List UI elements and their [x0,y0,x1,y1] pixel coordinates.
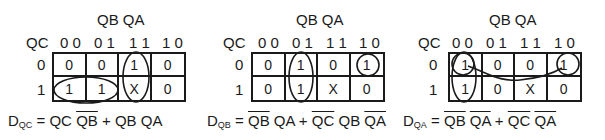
cell: 0 [483,54,516,77]
col-header-11: 1 1 [129,34,150,51]
row-variable-label: QC [223,34,246,51]
cell: 0 [152,77,185,100]
col-header-00: 0 0 [452,34,473,51]
col-header-10: 1 0 [162,34,183,51]
cell: 0 [548,77,581,100]
col-header-00: 0 0 [258,34,279,51]
col-header-11: 1 1 [520,34,541,51]
kmap-grid: 0 1 0 1 0 1 X 0 [251,52,385,102]
cell: 1 [351,54,384,77]
cell: X [515,77,548,100]
equation-dqa: DQA = QB QA + QC QA [403,112,556,130]
equation-dqb: DQB = QB QA + QC QB QA [207,112,386,130]
cell: 0 [515,54,548,77]
row-variable-label: QC [26,34,49,51]
cell: 0 [318,54,351,77]
cell: 1 [54,77,87,100]
kmap-grid: 1 0 0 1 1 0 X 0 [448,52,582,102]
kmap-dqc: QB QA QC 0 0 0 1 1 1 1 0 0 1 0 0 1 0 1 1… [0,0,200,140]
cell: X [318,77,351,100]
kmap-dqb: QB QA QC 0 0 0 1 1 1 1 0 0 1 0 1 0 1 0 1… [199,0,399,140]
cell: 1 [87,77,120,100]
kmap-grid: 0 0 1 0 1 1 X 0 [52,52,186,102]
row-header-1: 1 [37,81,45,98]
row-header-0: 0 [235,56,243,73]
cell: 0 [253,54,286,77]
cell: 0 [152,54,185,77]
cell: 1 [286,77,319,100]
cell: 0 [253,77,286,100]
row-header-1: 1 [235,81,243,98]
row-header-0: 0 [429,56,437,73]
row-header-1: 1 [429,81,437,98]
col-variable-label: QB QA [296,11,344,28]
cell: 0 [351,77,384,100]
kmap-dqa: QB QA QC 0 0 0 1 1 1 1 0 0 1 1 0 0 1 1 0… [396,0,596,140]
col-header-01: 0 1 [94,34,115,51]
cell: 1 [286,54,319,77]
cell: 1 [548,54,581,77]
col-header-11: 1 1 [326,34,347,51]
col-variable-label: QB QA [97,11,145,28]
cell: X [119,77,152,100]
cell: 1 [119,54,152,77]
row-header-0: 0 [37,56,45,73]
cell: 0 [54,54,87,77]
cell: 1 [450,54,483,77]
row-variable-label: QC [418,34,441,51]
col-header-01: 0 1 [486,34,507,51]
col-header-10: 1 0 [554,34,575,51]
cell: 1 [450,77,483,100]
col-header-10: 1 0 [359,34,380,51]
cell: 0 [483,77,516,100]
equation-dqc: DQC = QC QB + QB QA [8,112,162,130]
col-header-00: 0 0 [60,34,81,51]
col-variable-label: QB QA [489,11,537,28]
cell: 0 [87,54,120,77]
col-header-01: 0 1 [292,34,313,51]
